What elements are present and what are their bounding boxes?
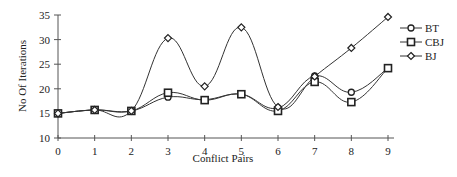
legend-label: BT: [425, 22, 439, 34]
legend-label: BJ: [425, 50, 437, 62]
legend-item-bj: BJ: [400, 50, 437, 62]
legend-item-cbj: CBJ: [400, 36, 445, 48]
series-group: [55, 13, 392, 117]
y-tick-label: 10: [39, 132, 51, 144]
x-tick-label: 9: [385, 145, 391, 157]
legend-label: CBJ: [425, 36, 445, 48]
series-bj: [55, 13, 392, 117]
legend-item-bt: BT: [400, 22, 439, 34]
series-bt: [55, 65, 391, 116]
axes: 1015202530350123456789: [39, 9, 394, 157]
x-tick-label: 8: [349, 145, 355, 157]
y-tick-label: 25: [39, 58, 51, 70]
y-tick-label: 15: [39, 107, 51, 119]
x-tick-label: 2: [129, 145, 135, 157]
x-tick-label: 0: [55, 145, 61, 157]
y-axis-label: No Of Iterations: [16, 40, 28, 112]
x-tick-label: 7: [312, 145, 318, 157]
line-chart: 1015202530350123456789 BTCBJBJ Conflict …: [0, 0, 457, 177]
x-axis-label: Conflict Pairs: [193, 152, 254, 164]
series-cbj: [55, 65, 392, 117]
x-tick-label: 1: [92, 145, 98, 157]
x-tick-label: 3: [165, 145, 171, 157]
y-tick-label: 35: [39, 9, 51, 21]
x-tick-label: 6: [275, 145, 281, 157]
legend: BTCBJBJ: [400, 22, 445, 62]
y-tick-label: 30: [39, 34, 51, 46]
y-tick-label: 20: [39, 83, 51, 95]
